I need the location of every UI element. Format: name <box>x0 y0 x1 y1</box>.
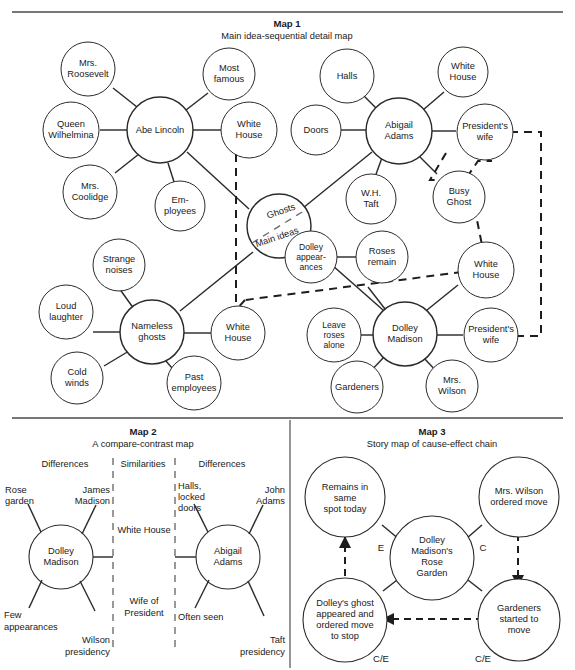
map2-col-differences-left: Differences <box>42 459 89 469</box>
map2-node-abigail-adams[interactable]: Abigail Adams <box>196 525 260 589</box>
svg-text:Abe Lincoln: Abe Lincoln <box>136 125 185 135</box>
svg-text:House: House <box>450 72 477 82</box>
map3-label-effect: E <box>378 542 384 553</box>
map2-leaf-john-adams-1: John <box>265 485 285 495</box>
svg-text:Dolley: Dolley <box>392 323 418 333</box>
node-doors[interactable]: Doors <box>291 105 341 155</box>
map2-leaf-few-appearances-1: Few <box>4 610 22 620</box>
map2-dashed-dividers <box>113 458 175 653</box>
node-queen-wilhelmina[interactable]: Queen Wilhelmina <box>43 102 99 158</box>
node-white-house-abigail[interactable]: White House <box>438 47 488 97</box>
map2-node-dolley-madison[interactable]: Dolley Madison <box>29 525 93 589</box>
node-abe-lincoln[interactable]: Abe Lincoln <box>127 97 193 163</box>
svg-text:started to: started to <box>500 614 539 624</box>
svg-text:Adams: Adams <box>214 557 243 567</box>
svg-text:President's: President's <box>468 324 514 334</box>
node-mrs-wilson[interactable]: Mrs. Wilson <box>426 360 478 412</box>
map2-leaf-rose-garden-2: garden <box>5 496 34 506</box>
svg-text:Doors: Doors <box>304 125 329 135</box>
node-mrs-roosevelt[interactable]: Mrs. Roosevelt <box>61 42 115 96</box>
node-roses-remain[interactable]: Roses remain <box>356 231 408 283</box>
svg-text:ployees: ployees <box>164 206 196 216</box>
concept-maps-page: Map 1 Main idea-sequential detail map <box>0 0 575 670</box>
svg-text:Mrs.: Mrs. <box>79 58 97 68</box>
svg-text:to stop: to stop <box>331 631 359 641</box>
map3-subtitle: Story map of cause-effect chain <box>367 439 498 449</box>
svg-text:Taft: Taft <box>364 199 379 209</box>
node-halls[interactable]: Halls <box>320 49 374 103</box>
map3-node-mrs-wilson-ordered-move[interactable]: Mrs. Wilson ordered move <box>479 457 559 537</box>
svg-text:Wilson: Wilson <box>438 386 466 396</box>
node-wh-taft[interactable]: W.H. Taft <box>346 174 396 224</box>
svg-text:Mrs.: Mrs. <box>81 181 99 191</box>
svg-text:Leave: Leave <box>322 320 346 330</box>
map2-leaf-often-seen: Often seen <box>178 612 223 622</box>
node-strange-noises[interactable]: Strange noises <box>93 239 145 291</box>
map3-node-rose-garden-hub[interactable]: Dolley Madison's Rose Garden <box>390 516 474 600</box>
svg-text:alone: alone <box>323 340 344 350</box>
map3-node-gardeners-started[interactable]: Gardeners started to move <box>478 579 560 661</box>
node-white-house-lincoln[interactable]: White House <box>221 102 277 158</box>
svg-text:House: House <box>473 270 500 280</box>
svg-text:Madison's: Madison's <box>411 546 453 556</box>
map2-leaf-halls-2: locked <box>178 492 205 502</box>
map2-leaf-james-madison-1: James <box>83 485 111 495</box>
node-gardeners[interactable]: Gardeners <box>331 361 383 413</box>
node-white-house-nameless[interactable]: White House <box>211 306 265 360</box>
map2-similarity-wife-2: President <box>124 608 164 618</box>
svg-text:Cold: Cold <box>67 367 86 377</box>
svg-text:Halls: Halls <box>337 71 358 81</box>
svg-text:Abigail: Abigail <box>214 546 242 556</box>
svg-text:ghosts: ghosts <box>138 332 166 342</box>
map2-leaf-james-madison-2: Madison <box>75 496 110 506</box>
map2-title: Map 2 <box>129 426 156 437</box>
map3-node-dolleys-ghost[interactable]: Dolley's ghost appeared and ordered move… <box>303 578 387 662</box>
svg-text:Nameless: Nameless <box>131 321 173 331</box>
svg-text:Rose: Rose <box>421 557 443 567</box>
node-most-famous[interactable]: Most famous <box>203 48 255 100</box>
map3-nodes: Remains in same spot today Mrs. Wilson o… <box>303 457 560 662</box>
svg-text:ordered move: ordered move <box>316 620 373 630</box>
svg-text:noises: noises <box>106 265 133 275</box>
map1-subtitle: Main idea-sequential detail map <box>221 31 352 41</box>
svg-text:Loud: Loud <box>56 301 77 311</box>
svg-text:Roosevelt: Roosevelt <box>67 69 109 79</box>
map2-subtitle: A compare-contrast map <box>92 439 193 449</box>
svg-text:Dolley: Dolley <box>48 546 74 556</box>
node-leave-roses-alone[interactable]: Leave roses alone <box>307 308 361 362</box>
map2-col-similarities: Similarities <box>121 459 166 469</box>
svg-text:Ghost: Ghost <box>447 197 472 207</box>
node-nameless-ghosts[interactable]: Nameless ghosts <box>120 300 184 364</box>
svg-text:Past: Past <box>185 372 204 382</box>
node-dolley-appearances[interactable]: Dolley appear- ances <box>285 231 337 283</box>
svg-text:appear-: appear- <box>296 252 326 262</box>
node-employees[interactable]: Em- ployees <box>155 181 205 231</box>
map2-leaf-john-adams-2: Adams <box>256 496 285 506</box>
map3-label-cause: C <box>480 542 487 553</box>
node-abigail-adams[interactable]: Abigail Adams <box>366 98 432 164</box>
map1-nodes: Mrs. Roosevelt Most famous Queen Wilhelm… <box>39 42 518 413</box>
node-busy-ghost[interactable]: Busy Ghost <box>433 171 485 223</box>
map2-similarity-white-house: White House <box>117 525 170 535</box>
node-loud-laughter[interactable]: Loud laughter <box>39 285 93 339</box>
node-presidents-wife-abigail[interactable]: President's wife <box>457 104 513 160</box>
map3-node-remains-in-same-spot[interactable]: Remains in same spot today <box>305 457 385 537</box>
map3-label-ce-left: C/E <box>373 653 389 664</box>
node-mrs-coolidge[interactable]: Mrs. Coolidge <box>63 165 117 219</box>
svg-text:Dolley's ghost: Dolley's ghost <box>316 598 374 608</box>
node-cold-winds[interactable]: Cold winds <box>51 352 103 404</box>
svg-text:laughter: laughter <box>49 312 83 322</box>
map2-column-headers: Differences Similarities Differences <box>42 459 246 469</box>
svg-text:remain: remain <box>368 257 396 267</box>
node-past-employees[interactable]: Past employees <box>167 356 221 410</box>
svg-text:Madison: Madison <box>43 557 78 567</box>
svg-text:House: House <box>236 130 263 140</box>
map2-col-differences-right: Differences <box>199 459 246 469</box>
map2-similarities: White House Wife of President <box>117 525 170 618</box>
svg-text:Gardeners: Gardeners <box>497 603 541 613</box>
node-white-house-dolley[interactable]: White House <box>458 242 514 298</box>
svg-text:ordered move: ordered move <box>490 497 547 507</box>
node-dolley-madison[interactable]: Dolley Madison <box>373 302 437 366</box>
node-presidents-wife-dolley[interactable]: President's wife <box>464 308 518 362</box>
svg-text:Wilhelmina: Wilhelmina <box>48 130 94 140</box>
